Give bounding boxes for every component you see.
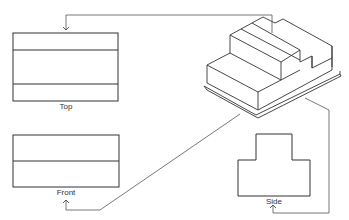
front-view (13, 135, 119, 187)
connector-to-top (66, 15, 272, 33)
side-view (238, 134, 310, 196)
front-view-label: Front (57, 188, 76, 197)
top-view-outline (13, 33, 118, 101)
top-view-label: Top (60, 102, 73, 111)
lower-step-front (207, 65, 258, 110)
isometric-object (204, 17, 341, 118)
base-plate-top-edge (204, 71, 340, 115)
middle-step-top (230, 23, 300, 62)
base-plate-edge (204, 74, 341, 118)
top-view (13, 33, 118, 101)
projection-diagram (0, 0, 349, 220)
side-view-outline (238, 134, 310, 196)
back-right-edge (283, 19, 332, 67)
notch-edges (300, 50, 332, 68)
connectors (66, 15, 329, 213)
back-top-edge (252, 17, 283, 23)
side-view-label: Side (266, 197, 282, 206)
body-step-line (281, 70, 300, 80)
connector-to-front (66, 114, 240, 210)
lower-step-top (207, 53, 281, 92)
